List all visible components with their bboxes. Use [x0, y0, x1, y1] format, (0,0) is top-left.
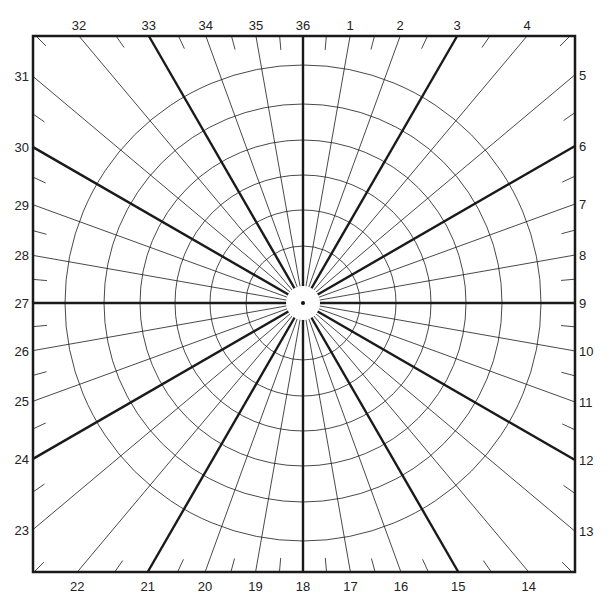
direction-label: 35 — [249, 18, 263, 33]
direction-label: 36 — [296, 18, 310, 33]
tick-mark — [325, 36, 326, 50]
tick-mark — [561, 326, 575, 327]
direction-label: 18 — [296, 579, 310, 594]
major-ray — [33, 303, 303, 459]
minor-ray — [303, 303, 575, 402]
minor-ray — [303, 303, 575, 531]
direction-label: 27 — [15, 296, 29, 311]
direction-label: 28 — [15, 248, 29, 263]
direction-label: 17 — [343, 579, 357, 594]
tick-mark — [483, 561, 491, 572]
minor-ray — [77, 303, 303, 572]
direction-label: 15 — [451, 579, 465, 594]
minor-ray — [303, 204, 575, 303]
tick-mark — [562, 562, 572, 572]
minor-ray — [33, 303, 303, 530]
tick-mark — [562, 176, 575, 182]
center-point — [301, 301, 305, 305]
direction-label: 30 — [15, 140, 29, 155]
tick-mark — [34, 562, 44, 572]
tick-mark — [33, 484, 44, 492]
direction-label: 2 — [397, 18, 404, 33]
direction-label: 25 — [15, 394, 29, 409]
major-ray — [149, 36, 303, 303]
minor-ray — [206, 36, 303, 303]
minor-ray — [303, 36, 400, 303]
direction-label: 33 — [142, 18, 156, 33]
direction-label: 4 — [523, 18, 530, 33]
direction-label: 19 — [248, 579, 262, 594]
direction-label: 31 — [15, 69, 29, 84]
tick-mark — [231, 558, 235, 572]
minor-ray — [303, 303, 529, 572]
direction-label: 13 — [579, 524, 593, 539]
tick-mark — [564, 113, 575, 121]
minor-ray — [205, 303, 303, 572]
polar-grid-diagram: 1234567891011121314151617181920212223242… — [0, 0, 609, 601]
tick-mark — [178, 559, 184, 572]
major-ray — [303, 36, 457, 303]
direction-label: 32 — [72, 18, 86, 33]
direction-label: 11 — [579, 395, 593, 410]
tick-mark — [33, 231, 47, 235]
minor-ray — [303, 303, 401, 572]
direction-label: 22 — [70, 579, 84, 594]
tick-mark — [116, 36, 124, 47]
direction-label: 3 — [454, 18, 461, 33]
tick-mark — [33, 325, 47, 326]
minor-ray — [33, 76, 303, 303]
major-ray — [303, 303, 575, 460]
direction-label: 1 — [346, 18, 353, 33]
tick-mark — [231, 36, 235, 50]
tick-mark — [422, 36, 428, 49]
major-ray — [33, 147, 303, 303]
tick-mark — [33, 114, 44, 122]
direction-label: 9 — [579, 296, 586, 311]
direction-label: 6 — [579, 139, 586, 154]
direction-label: 7 — [579, 197, 586, 212]
tick-mark — [423, 559, 429, 572]
direction-label: 8 — [579, 248, 586, 263]
tick-mark — [33, 279, 47, 280]
minor-ray — [303, 36, 527, 303]
tick-mark — [279, 558, 280, 572]
tick-mark — [562, 424, 575, 430]
tick-mark — [33, 372, 47, 376]
tick-mark — [371, 36, 375, 50]
direction-label: 21 — [140, 579, 154, 594]
tick-mark — [178, 36, 184, 49]
tick-mark — [36, 36, 46, 46]
tick-mark — [33, 423, 46, 429]
direction-label: 34 — [199, 18, 213, 33]
minor-ray — [303, 75, 575, 303]
major-ray — [303, 303, 458, 572]
minor-ray — [79, 36, 303, 303]
direction-label: 14 — [521, 579, 535, 594]
direction-label: 5 — [579, 68, 586, 83]
tick-mark — [280, 36, 281, 50]
tick-mark — [560, 36, 570, 46]
tick-mark — [33, 177, 46, 183]
direction-label: 12 — [579, 453, 593, 468]
direction-label: 24 — [15, 452, 29, 467]
direction-label: 16 — [394, 579, 408, 594]
tick-mark — [371, 558, 375, 572]
major-ray — [148, 303, 303, 572]
tick-mark — [482, 36, 490, 47]
direction-label: 20 — [198, 579, 212, 594]
direction-label: 26 — [15, 344, 29, 359]
direction-label: 29 — [15, 198, 29, 213]
tick-mark — [561, 230, 575, 234]
tick-mark — [564, 485, 575, 493]
major-ray — [303, 146, 575, 303]
direction-label: 23 — [15, 523, 29, 538]
direction-label: 10 — [579, 344, 593, 359]
tick-mark — [325, 558, 326, 572]
tick-mark — [561, 372, 575, 376]
tick-mark — [561, 279, 575, 280]
tick-mark — [115, 561, 123, 572]
